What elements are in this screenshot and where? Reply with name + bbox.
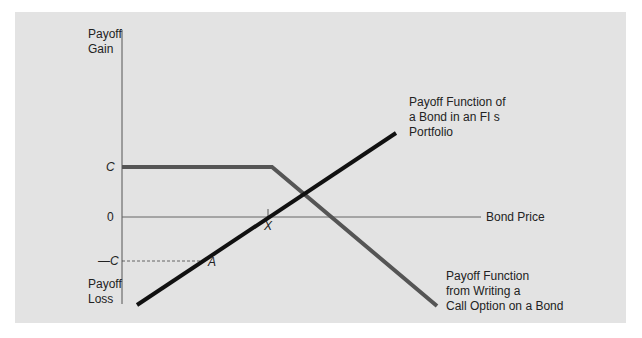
bond-line-label-2: a Bond in an FI s: [409, 110, 500, 125]
point-a-label: A: [208, 255, 216, 270]
neg-c-tick-label: —C: [98, 254, 119, 269]
zero-tick-label: 0: [107, 210, 114, 225]
payoff-gain-label-2: Gain: [88, 42, 113, 57]
strike-x-label: X: [264, 219, 272, 234]
payoff-loss-label-2: Loss: [88, 292, 113, 307]
bond-line-label-1: Payoff Function of: [409, 95, 506, 110]
payoff-gain-label-1: Payoff: [88, 27, 122, 42]
bond-line-label-3: Portfolio: [409, 125, 453, 140]
c-tick-label: C: [106, 160, 115, 175]
call-line-label-2: from Writing a: [446, 284, 520, 299]
call-line-label-1: Payoff Function: [446, 269, 529, 284]
call-line-label-3: Call Option on a Bond: [446, 299, 563, 314]
bond-price-axis-label: Bond Price: [486, 210, 545, 225]
payoff-loss-label-1: Payoff: [88, 277, 122, 292]
